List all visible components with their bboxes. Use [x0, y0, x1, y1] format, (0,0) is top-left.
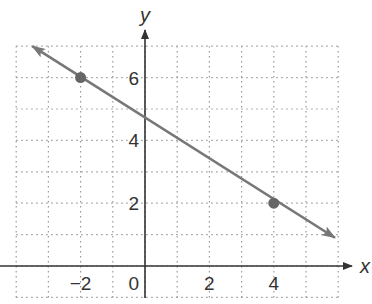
data-series: [32, 46, 335, 238]
y-tick-label: 4: [128, 130, 139, 151]
x-tick-label: −2: [70, 273, 92, 294]
x-tick-label: 4: [269, 273, 280, 294]
x-tick-label: 0: [128, 273, 139, 294]
data-point: [75, 72, 86, 83]
grid: [16, 46, 338, 297]
data-point: [268, 198, 279, 209]
y-tick-label: 2: [128, 193, 139, 214]
coordinate-plane: −2024246 x y: [0, 0, 372, 304]
y-axis-label: y: [138, 4, 151, 26]
tick-labels: −2024246: [70, 68, 280, 294]
x-axis-label: x: [359, 255, 371, 277]
y-tick-label: 6: [128, 68, 139, 89]
axes: [0, 30, 352, 298]
x-tick-label: 2: [204, 273, 215, 294]
